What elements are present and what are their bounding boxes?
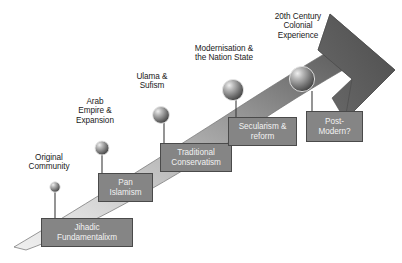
diagram-root: Original Community Arab Empire & Expansi… <box>0 0 402 263</box>
stage-node-original-community[interactable] <box>50 182 60 192</box>
stage-node-ulama-sufism[interactable] <box>153 107 170 124</box>
movement-box-traditional-conservatism[interactable]: Traditional Conservatism <box>160 143 232 172</box>
stage-node-modernisation-nation-state[interactable] <box>222 79 243 100</box>
movement-box-pan-islamism[interactable]: Pan Islamism <box>98 173 153 202</box>
stage-node-arab-empire-expansion[interactable] <box>95 141 109 155</box>
movement-box-secularism-reform[interactable]: Secularism & reform <box>228 117 297 146</box>
movement-box-jihadic-fundamentalism[interactable]: Jihadic Fundamentalixm <box>41 218 133 247</box>
stage-node-20th-century-colonial-experience[interactable] <box>289 66 314 91</box>
movement-box-post-modern[interactable]: Post- Modern? <box>306 111 363 142</box>
